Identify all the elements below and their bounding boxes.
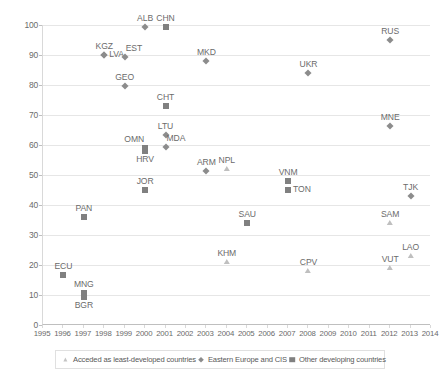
y-axis-tick-label: 50 [12, 171, 38, 180]
x-axis-tick-mark [389, 325, 390, 328]
y-axis-tick-label: 80 [12, 81, 38, 90]
y-axis-tick-label: 90 [12, 51, 38, 60]
data-point-label: LTU [158, 122, 173, 131]
data-point-label: UKR [300, 60, 318, 69]
chart-legend: Acceded as least-developed countriesEast… [55, 350, 385, 369]
data-point-label: GEO [115, 73, 134, 82]
x-axis-tick-label: 2014 [415, 330, 440, 338]
gridline [43, 265, 430, 266]
gridline [43, 175, 430, 176]
data-point-label: ARM [197, 158, 216, 167]
x-axis-tick-mark [246, 325, 247, 328]
data-point-label: ECU [54, 262, 72, 271]
data-point-label: ALB [137, 14, 153, 23]
gridline [43, 295, 430, 296]
diamond-marker-icon [203, 167, 210, 174]
legend-item-label: Eastern Europe and CIS [208, 356, 287, 364]
y-axis-tick-label: 70 [12, 111, 38, 120]
scatter-chart: 1009080706050403020100 NPLKHMCPVSAMVUTLA… [0, 0, 440, 382]
gridline [43, 235, 430, 236]
x-axis-tick-mark [267, 325, 268, 328]
legend-item-label: Acceded as least-developed countries [73, 356, 196, 364]
square-marker-icon [244, 220, 250, 226]
diamond-marker-icon [203, 57, 210, 64]
triangle-marker-icon [407, 253, 413, 258]
data-point-label: BGR [75, 301, 93, 310]
square-marker-icon [163, 24, 169, 30]
data-point-label: KHM [217, 249, 236, 258]
gridline [43, 85, 430, 86]
x-axis-tick-mark [103, 325, 104, 328]
legend-item[interactable]: Acceded as least-developed countries [61, 356, 196, 364]
data-point-label: LAO [402, 243, 419, 252]
x-axis-tick-mark [144, 325, 145, 328]
data-point-label: RUS [381, 27, 399, 36]
triangle-marker-icon [224, 259, 230, 264]
diamond-marker-icon [101, 51, 108, 58]
legend-item[interactable]: Eastern Europe and CIS [196, 356, 287, 364]
gridline [43, 25, 430, 26]
data-point-label: JOR [137, 177, 154, 186]
diamond-marker-icon [387, 122, 394, 129]
x-axis-tick-mark [62, 325, 63, 328]
data-point-label: OMN [124, 135, 144, 144]
y-axis-tick-label: 100 [12, 21, 38, 30]
triangle-marker-icon [387, 265, 393, 270]
data-point-label: MDA [167, 134, 186, 143]
data-point-label: CPV [300, 258, 317, 267]
data-point-label: CHN [156, 14, 174, 23]
data-point-label: VNM [279, 168, 298, 177]
gridline [43, 115, 430, 116]
square-marker-icon [163, 103, 169, 109]
x-axis-tick-mark [430, 325, 431, 328]
data-point-label: TJK [403, 183, 418, 192]
gridline [43, 145, 430, 146]
y-axis-tick-label: 0 [12, 321, 38, 330]
x-axis-tick-mark [287, 325, 288, 328]
square-marker-icon [81, 214, 87, 220]
data-point-label: EST [126, 44, 142, 53]
y-axis-tick-label: 30 [12, 231, 38, 240]
data-point-label: CHT [157, 93, 174, 102]
x-axis-tick-mark [328, 325, 329, 328]
x-axis-tick-mark [185, 325, 186, 328]
x-axis-tick-mark [410, 325, 411, 328]
diamond-marker-icon [305, 69, 312, 76]
data-point-label: VUT [382, 255, 399, 264]
x-axis-tick-mark [124, 325, 125, 328]
y-axis-tick-label: 10 [12, 291, 38, 300]
data-point-label: SAM [381, 210, 399, 219]
x-axis-tick-mark [226, 325, 227, 328]
data-point-label: MNE [381, 113, 400, 122]
legend-item-label: Other developing countries [299, 356, 386, 364]
diamond-legend-marker-icon [196, 356, 206, 364]
x-axis-tick-mark [205, 325, 206, 328]
x-axis-tick-mark [83, 325, 84, 328]
square-marker-icon [142, 187, 148, 193]
diamond-marker-icon [387, 36, 394, 43]
diamond-marker-icon [121, 82, 128, 89]
triangle-marker-icon [305, 268, 311, 273]
plot-area: NPLKHMCPVSAMVUTLAOKGZLVAESTGEOALBMKDLTUM… [42, 25, 430, 325]
square-marker-icon [285, 178, 291, 184]
data-point-label: SAU [239, 210, 256, 219]
data-point-label: MNG [74, 280, 94, 289]
data-point-label: MKD [197, 48, 216, 57]
legend-item[interactable]: Other developing countries [287, 356, 386, 364]
diamond-marker-icon [162, 144, 169, 151]
triangle-marker-icon [224, 166, 230, 171]
y-axis-tick-label: 20 [12, 261, 38, 270]
y-axis-tick-label: 60 [12, 141, 38, 150]
square-marker-icon [285, 187, 291, 193]
x-axis-tick-mark [42, 325, 43, 328]
triangle-legend-marker-icon [61, 356, 71, 364]
x-axis-tick-mark [165, 325, 166, 328]
data-point-label: HRV [136, 155, 154, 164]
data-point-label: PAN [75, 204, 92, 213]
x-axis-tick-mark [369, 325, 370, 328]
gridline [43, 205, 430, 206]
square-marker-icon [60, 272, 66, 278]
y-axis-tick-label: 40 [12, 201, 38, 210]
x-axis-tick-mark [307, 325, 308, 328]
data-point-label: TON [293, 185, 311, 194]
